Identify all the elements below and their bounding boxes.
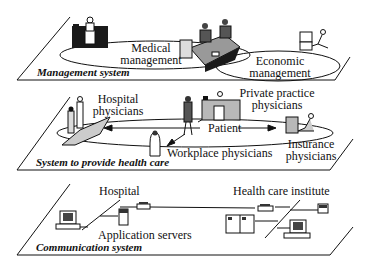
hospital-physicians-icon xyxy=(68,97,83,134)
economic-management-label: Economic management xyxy=(245,55,315,79)
hospital-label: Hospital xyxy=(99,185,140,197)
meeting-table-icon xyxy=(180,19,240,72)
institute-printer-icon xyxy=(318,204,328,213)
health-care-system-title: System to provide health care xyxy=(36,156,169,168)
workplace-physician-icon xyxy=(150,131,160,157)
patient-label: Patient xyxy=(208,122,241,134)
label-line: physicians xyxy=(88,105,148,117)
label-line: management xyxy=(245,67,315,79)
hospital-router-icon xyxy=(137,202,150,209)
wan-link xyxy=(150,207,255,208)
doctor-at-desk-icon xyxy=(72,17,108,48)
medical-management-label: Medical management xyxy=(116,42,186,66)
insurance-physician-icon xyxy=(286,114,314,134)
label-line: physicians xyxy=(232,99,322,111)
application-servers-label: Application servers xyxy=(98,229,192,241)
patient-icon xyxy=(184,96,192,135)
insurance-physicians-label: Insurance physicians xyxy=(281,138,341,162)
label-line: physicians xyxy=(281,150,341,162)
communication-system-title: Communication system xyxy=(36,241,142,253)
institute-computer-icon xyxy=(284,220,310,238)
hospital-network-bus xyxy=(82,200,120,230)
institute-server-icon xyxy=(226,215,254,233)
hospital-physicians-label: Hospital physicians xyxy=(88,93,148,117)
hospital-computer-icon xyxy=(56,211,80,229)
economist-at-computer-icon xyxy=(300,30,328,51)
institute-router-icon xyxy=(258,204,273,211)
diagram-canvas: Medical management Economic management M… xyxy=(0,0,372,269)
private-practice-label: Private practice physicians xyxy=(232,87,322,111)
workplace-physicians-label: Workplace physicians xyxy=(167,147,272,159)
label-line: management xyxy=(116,54,186,66)
management-system-title: Management system xyxy=(37,66,130,78)
application-server-icon xyxy=(119,209,128,225)
health-care-institute-label: Health care institute xyxy=(233,185,330,197)
